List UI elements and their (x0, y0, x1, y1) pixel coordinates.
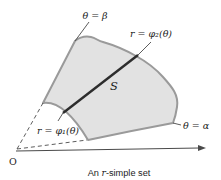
alpha-ray-dashed-line (17, 140, 87, 149)
outer-curve-label: r = φ₂(θ) (130, 28, 172, 39)
polar-region-diagram: θ = β r = φ₂(θ) S r = φ₁(θ) θ = α O An r… (0, 0, 221, 180)
caption-suffix: -simple set (106, 168, 151, 178)
inner-curve-leader-line (58, 113, 63, 121)
region-label: S (110, 79, 118, 93)
beta-ray-label: θ = β (82, 10, 108, 21)
alpha-ray-extension-line (173, 123, 181, 125)
caption-prefix: An (88, 168, 102, 178)
polar-axis-arrowhead-icon (198, 145, 206, 151)
polar-axis-line (16, 148, 199, 151)
r-simple-set-figure: θ = β r = φ₂(θ) S r = φ₁(θ) θ = α O An r… (0, 0, 221, 180)
inner-curve-label: r = φ₁(θ) (37, 125, 79, 136)
origin-label: O (9, 156, 17, 167)
alpha-ray-label: θ = α (183, 120, 210, 131)
outer-curve-leader-line (138, 42, 151, 55)
figure-caption: An r-simple set (88, 167, 151, 178)
